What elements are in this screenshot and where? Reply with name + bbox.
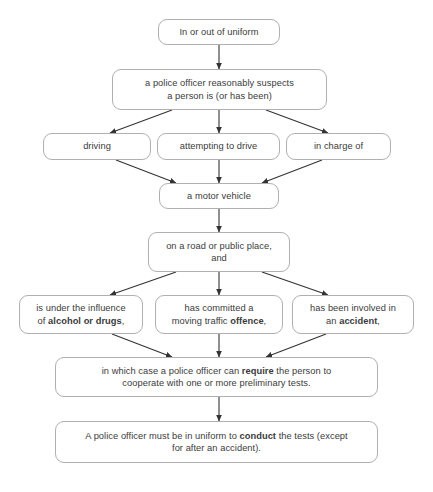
node-label: a police officer reasonably suspectsa pe… [119,77,320,102]
node-attempting-to-drive[interactable]: attempting to drive [157,133,280,160]
node-label: in which case a police officer can requi… [62,365,371,390]
node-involved-in-an-accident[interactable]: has been involved inan accident, [292,295,414,334]
footer-cut-text [0,474,433,492]
node-a-motor-vehicle[interactable]: a motor vehicle [159,183,279,209]
node-road-or-public-place[interactable]: on a road or public place,and [148,232,290,272]
node-police-officer-suspects[interactable]: a police officer reasonably suspectsa pe… [112,69,327,110]
node-require-preliminary-tests[interactable]: in which case a police officer can requi… [55,357,378,397]
node-label: on a road or public place,and [155,240,283,265]
node-label: has been involved inan accident, [299,302,407,327]
node-label: In or out of uniform [165,26,273,38]
node-label: has committed amoving traffic offence, [162,302,276,327]
node-label: attempting to drive [164,140,273,152]
node-in-charge-of[interactable]: in charge of [286,133,391,160]
node-label: in charge of [293,140,384,152]
node-in-or-out-of-uniform[interactable]: In or out of uniform [158,19,280,45]
node-label: a motor vehicle [166,190,272,202]
flowchart: In or out of uniform a police officer re… [0,0,433,492]
node-label: driving [50,140,144,152]
node-label: is under the influenceof alcohol or drug… [26,302,136,327]
node-moving-traffic-offence[interactable]: has committed amoving traffic offence, [155,295,283,334]
node-label: A police officer must be in uniform to c… [62,430,371,455]
node-driving[interactable]: driving [43,133,151,160]
node-under-the-influence[interactable]: is under the influenceof alcohol or drug… [19,295,143,334]
node-uniform-to-conduct-tests[interactable]: A police officer must be in uniform to c… [55,421,378,463]
